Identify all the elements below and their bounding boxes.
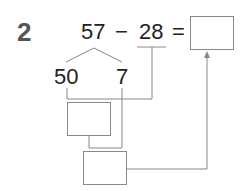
step-box-2[interactable] bbox=[84, 152, 126, 184]
math-problem: 2 57 − 28 = 50 7 bbox=[0, 0, 247, 191]
answer-input[interactable] bbox=[191, 17, 233, 49]
step-box-1[interactable] bbox=[68, 103, 110, 135]
